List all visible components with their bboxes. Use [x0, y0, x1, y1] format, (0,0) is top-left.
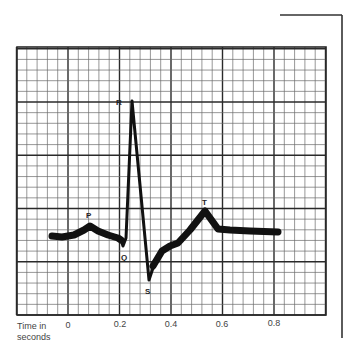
- label-q-wave: Q: [121, 254, 127, 262]
- x-axis-title: Time in seconds: [17, 321, 51, 344]
- label-t-wave: T: [202, 199, 207, 207]
- x-axis-title-line1: Time in: [17, 321, 51, 332]
- label-s-wave: S: [145, 288, 150, 296]
- x-axis-title-line2: seconds: [17, 332, 51, 343]
- x-tick-0-6: 0.6: [216, 320, 229, 329]
- ecg-grid: [17, 47, 327, 315]
- x-tick-0: 0: [65, 321, 70, 330]
- ecg-grid-and-trace: [0, 0, 358, 359]
- label-p-wave: P: [86, 212, 91, 220]
- label-r-wave: R: [116, 99, 122, 107]
- x-tick-0-2: 0.2: [114, 320, 127, 329]
- ecg-trace-baseline-left: [52, 226, 121, 240]
- x-tick-0-4: 0.4: [165, 320, 178, 329]
- ecg-figure: P R Q S T Time in seconds 0 0.2 0.4 0.6 …: [0, 0, 358, 359]
- x-tick-0-8: 0.8: [268, 319, 281, 328]
